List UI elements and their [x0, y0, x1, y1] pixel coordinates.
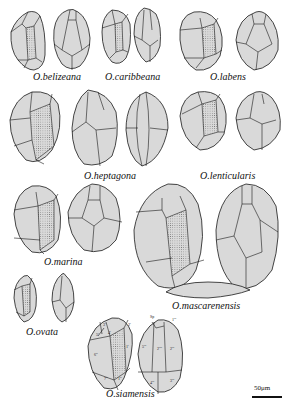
plate-label: 2'''' — [157, 346, 162, 351]
label-belizeana: O.belizeana — [33, 71, 81, 82]
labens-hypotheca — [236, 12, 278, 71]
marina-hypotheca — [68, 184, 122, 252]
lenticularis-epitheca — [180, 92, 226, 150]
plate-label: 4''' — [150, 380, 154, 385]
ovata-hypotheca — [52, 273, 74, 322]
plate-label: 3''' — [170, 378, 174, 383]
label-lenticularis: O.lenticularis — [200, 170, 255, 181]
label-marina: O.marina — [44, 256, 83, 267]
ovata-epitheca — [14, 275, 36, 322]
mascarenensis-epitheca — [134, 184, 204, 292]
plate-label: 1' — [126, 344, 129, 349]
label-ovata: O.ovata — [26, 326, 58, 337]
belizeana-epitheca — [11, 12, 45, 71]
plate-label: Sp — [150, 314, 154, 319]
label-mascarenensis: O.mascarenensis — [172, 300, 240, 311]
heptagona-epitheca — [10, 92, 60, 164]
lenticularis-hypotheca — [236, 92, 280, 150]
marina-epitheca — [14, 186, 61, 254]
scale-bar — [252, 396, 282, 398]
siamensis-hypotheca — [138, 320, 183, 394]
plate-label: 3' — [103, 322, 106, 327]
plate-label: 2' — [128, 322, 131, 327]
heptagona-lateral — [126, 92, 168, 166]
label-labens: O.labens — [210, 71, 246, 82]
plate-label: 7" — [104, 376, 108, 381]
caribbeana-hypotheca — [134, 8, 161, 62]
label-heptagona: O.heptagona — [84, 170, 136, 181]
plate-label: 5' — [96, 332, 99, 337]
plate-label: 5''' — [142, 344, 146, 349]
plate-label: 1''' — [172, 317, 176, 322]
plate-label: 4' — [108, 330, 111, 335]
plate-label: 2''' — [170, 346, 174, 351]
plate-label: 6" — [94, 352, 98, 357]
mascarenensis-hypotheca — [216, 184, 278, 290]
caribbeana-epitheca — [102, 10, 131, 63]
heptagona-hypotheca — [72, 90, 117, 166]
labens-epitheca — [180, 12, 222, 71]
belizeana-hypotheca — [54, 9, 90, 70]
plate-label: 1" — [118, 376, 122, 381]
label-caribbeana: O.caribbeana — [105, 71, 160, 82]
scale-bar-label: 50μm — [254, 384, 270, 392]
figure-canvas — [0, 0, 288, 401]
label-siamensis: O.siamensis — [106, 388, 155, 399]
